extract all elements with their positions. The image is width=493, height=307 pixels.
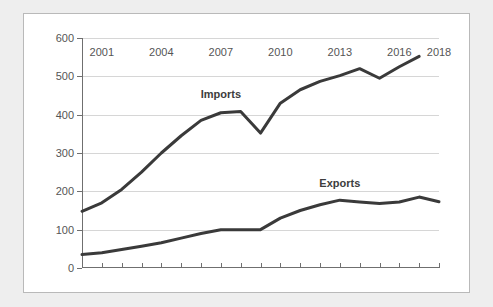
y-axis-tick-label: 500 (56, 70, 74, 82)
chart-figure-panel: 0100200300400500600 20012004200720102013… (23, 13, 470, 293)
series-lines (82, 38, 439, 268)
y-axis-tick-label: 100 (56, 224, 74, 236)
y-axis-tick-label: 600 (56, 32, 74, 44)
series-line-imports (82, 56, 419, 211)
y-axis-tick-label: 400 (56, 109, 74, 121)
series-label-exports: Exports (319, 177, 360, 189)
y-axis-tick-label: 0 (68, 262, 74, 274)
x-axis-tick-mark (439, 263, 440, 268)
plot-area: 0100200300400500600 20012004200720102013… (82, 38, 439, 268)
y-axis-tick-mark (77, 268, 82, 269)
page-root: 0100200300400500600 20012004200720102013… (0, 0, 493, 307)
y-axis-tick-label: 300 (56, 147, 74, 159)
y-axis-tick-label: 200 (56, 185, 74, 197)
series-line-exports (82, 197, 439, 255)
series-label-imports: Imports (201, 88, 241, 100)
